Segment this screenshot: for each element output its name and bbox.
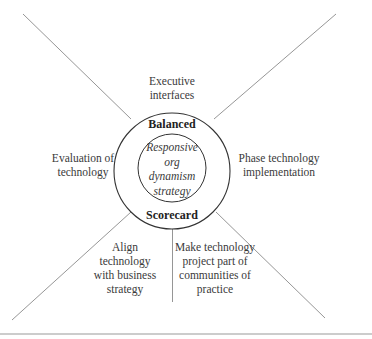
spoke-label-top: Executive interfaces xyxy=(132,74,212,102)
spoke-label-bottom-left: Align technology with business strategy xyxy=(85,240,165,296)
outer-circle-bottom-label: Scorecard xyxy=(132,208,212,222)
outer-circle-top-label: Balanced xyxy=(132,117,212,131)
inner-circle-label: Responsive org dynamism strategy xyxy=(132,140,212,198)
spoke-line-top-left xyxy=(23,14,131,119)
spoke-line-top-right xyxy=(214,14,336,119)
spoke-label-left: Evaluation of technology xyxy=(38,151,128,179)
spoke-label-bottom-right: Make technology project part of communit… xyxy=(172,240,258,296)
spoke-label-right: Phase technology implementation xyxy=(224,151,334,179)
